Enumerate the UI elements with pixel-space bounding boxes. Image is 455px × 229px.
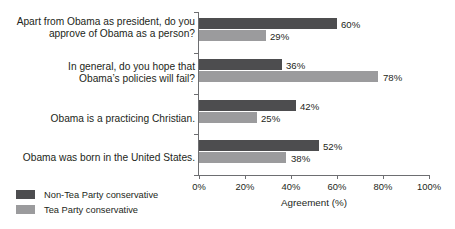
legend-label: Non-Tea Party conservative [44,190,158,200]
bar-tea-party [199,152,286,163]
category-label: Obama was born in the United States. [0,152,195,164]
bar-value-label: 42% [300,101,319,112]
x-axis-tick [337,175,338,179]
x-axis-tick [245,175,246,179]
x-axis-tick [429,175,430,179]
y-axis-tick [194,12,199,13]
x-axis-tick-label: 60% [328,181,347,192]
bar-non-tea-party [199,140,319,151]
x-axis-tick [291,175,292,179]
bar-chart: Apart from Obama as president, do you ap… [0,0,455,229]
bar-value-label: 25% [261,113,280,124]
bar-non-tea-party [199,100,296,111]
x-axis-tick-label: 0% [192,181,206,192]
legend-item-tea-party: Tea Party conservative [16,202,158,217]
y-axis-tick [194,134,199,135]
legend-swatch-icon [16,190,35,199]
bar-non-tea-party [199,18,337,29]
x-axis-tick [199,175,200,179]
x-axis-title: Agreement (%) [199,197,429,208]
x-axis-tick-label: 100% [417,181,441,192]
bar-tea-party [199,30,266,41]
bar-value-label: 36% [286,60,305,71]
category-label: In general, do you hope that Obama’s pol… [0,61,195,86]
x-axis-tick-label: 80% [374,181,393,192]
chart-legend: Non-Tea Party conservative Tea Party con… [16,187,158,217]
plot-area: 60% 29% 36% 78% 42% 25% 52% 38% 0% 20% 4… [199,12,429,175]
y-axis-tick [194,94,199,95]
bar-tea-party [199,71,378,82]
bar-value-label: 38% [291,153,310,164]
bar-tea-party [199,112,257,123]
x-axis-tick-label: 20% [236,181,255,192]
x-axis-tick [383,175,384,179]
legend-label: Tea Party conservative [44,205,138,215]
bar-value-label: 52% [323,141,342,152]
bar-non-tea-party [199,59,282,70]
category-label: Obama is a practicing Christian. [0,113,195,125]
y-axis-tick [194,53,199,54]
x-axis-line [198,175,429,176]
bar-value-label: 60% [341,19,360,30]
bar-value-label: 78% [383,72,402,83]
category-label: Apart from Obama as president, do you ap… [0,16,195,41]
legend-swatch-icon [16,205,35,214]
bar-value-label: 29% [270,31,289,42]
x-axis-tick-label: 40% [282,181,301,192]
legend-item-non-tea-party: Non-Tea Party conservative [16,187,158,202]
